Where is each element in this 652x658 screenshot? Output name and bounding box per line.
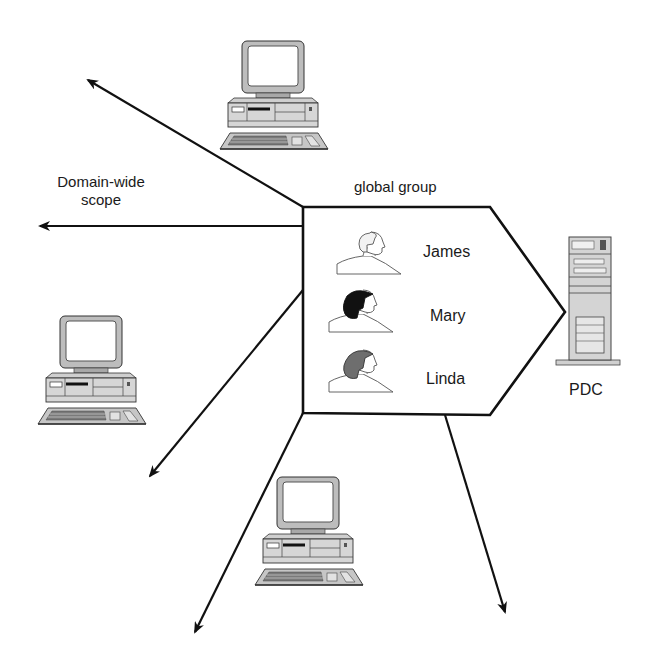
arrow-down-right bbox=[445, 415, 505, 612]
tower-server-icon bbox=[556, 237, 620, 365]
desktop-computer-icon bbox=[220, 41, 328, 149]
server-label: PDC bbox=[569, 381, 603, 399]
scope-label-line2: scope bbox=[46, 191, 156, 209]
desktop-computer-icon bbox=[255, 477, 363, 585]
desktop-computer-icon bbox=[38, 316, 146, 424]
scope-label-line1: Domain-wide bbox=[46, 173, 156, 191]
group-title: global group bbox=[354, 178, 437, 195]
member-linda-name: Linda bbox=[426, 370, 465, 388]
diagram-canvas bbox=[0, 0, 652, 658]
member-james-name: James bbox=[423, 243, 470, 261]
scope-label: Domain-wide scope bbox=[46, 173, 156, 209]
arrow-down-left bbox=[150, 290, 303, 476]
member-mary-name: Mary bbox=[430, 307, 466, 325]
